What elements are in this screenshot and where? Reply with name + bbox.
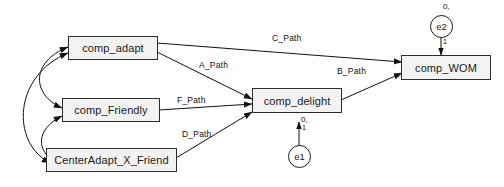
node-comp-delight-label: comp_delight [264,95,331,107]
path-label-c-path: C_Path [272,33,302,43]
error-term-e1-label: e1 [294,151,305,162]
error-term-e2[interactable]: e2 [430,15,453,38]
path-label-f-path: F_Path [177,95,206,105]
error-term-e2-loading: 1 [443,38,447,45]
node-comp-wom-label: comp_WOM [415,62,477,74]
error-term-e1-loading: 1 [302,124,306,131]
node-comp-adapt-label: comp_adapt [82,42,144,54]
node-comp-delight[interactable]: comp_delight [252,88,342,113]
sem-path-diagram: comp_adapt comp_Friendly CenterAdapt_X_F… [0,0,504,187]
error-term-e2-label: e2 [436,21,447,32]
node-comp-friendly[interactable]: comp_Friendly [62,98,160,122]
path-label-d-path: D_Path [182,129,212,139]
node-comp-friendly-label: comp_Friendly [74,104,147,116]
error-term-e2-mean: 0, [443,2,450,11]
node-centeradapt-x-friend[interactable]: CenterAdapt_X_Friend [46,148,177,172]
node-centeradapt-x-friend-label: CenterAdapt_X_Friend [54,154,169,166]
node-comp-adapt[interactable]: comp_adapt [68,36,158,60]
path-label-a-path: A_Path [199,60,228,70]
error-term-e1-mean: 0, [301,115,308,124]
path-line-c-path [157,43,402,62]
node-comp-wom[interactable]: comp_WOM [401,55,491,80]
error-term-e1[interactable]: e1 [288,145,311,168]
path-label-b-path: B_Path [337,66,366,76]
path-line-b-path [341,73,402,100]
